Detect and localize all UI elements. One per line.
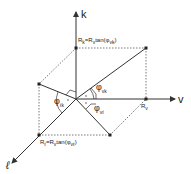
points <box>38 47 148 137</box>
vector-vk <box>76 48 146 99</box>
projection-lines <box>39 48 146 135</box>
k-axis-label: k <box>81 9 87 20</box>
v-axis-label: v <box>178 94 184 105</box>
rk-equation-label: Rk=Rvtan(φvk) <box>78 37 116 45</box>
vector-vl <box>76 99 110 135</box>
rl-equation-label: Rℓ=Rvtan(φvℓ) <box>40 139 77 147</box>
phi-vk-label: φvk <box>96 83 107 94</box>
phi-lk-label: φℓk <box>54 97 64 108</box>
3d-angle-diagram: k v ℓ Rk=Rvtan(φvk) Rℓ=Rvtan(φvℓ) Rv φvk… <box>0 0 191 174</box>
rv-label: Rv <box>141 103 148 111</box>
phi-vl-label: φvℓ <box>94 104 104 115</box>
l-axis-label: ℓ <box>6 160 10 171</box>
l-axis <box>12 99 76 163</box>
